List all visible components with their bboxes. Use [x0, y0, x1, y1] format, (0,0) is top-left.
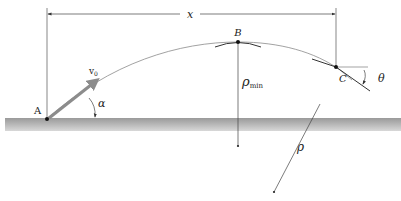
- distance-dimension: x: [47, 8, 336, 119]
- alpha-label: α: [98, 97, 106, 110]
- theta-angle-arc: [363, 70, 365, 84]
- ground: [5, 118, 401, 131]
- alpha-angle-arc: [89, 98, 95, 117]
- projectile-diagram: x θ v0 α ρmin ρ A B C: [0, 0, 401, 201]
- rho-label: ρ: [296, 140, 304, 154]
- rho-center: [273, 191, 275, 193]
- point-b-label: B: [233, 27, 241, 38]
- point-a: [45, 117, 49, 121]
- distance-label: x: [187, 8, 194, 21]
- point-c: [334, 65, 338, 69]
- point-a-label: A: [33, 105, 42, 116]
- theta-label: θ: [378, 72, 385, 85]
- rho-min-label: ρmin: [241, 74, 264, 90]
- trajectory-curve-main: [47, 42, 352, 119]
- rho-min-center: [237, 145, 239, 147]
- point-c-label: C: [339, 73, 347, 84]
- velocity-label: v0: [88, 66, 98, 77]
- point-b: [236, 40, 240, 44]
- velocity-arrow: [49, 81, 96, 118]
